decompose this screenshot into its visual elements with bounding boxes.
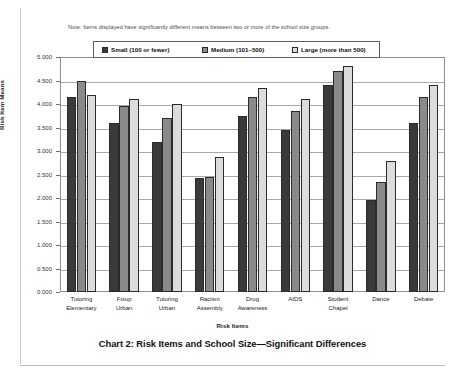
x-label-line: Assembly <box>188 304 231 313</box>
legend-label: Small (100 or fewer) <box>111 46 169 53</box>
chart-caption: Chart 2: Risk Items and School Size—Sign… <box>0 338 465 349</box>
x-label-line: Dance <box>359 295 402 304</box>
legend-swatch-icon <box>292 47 298 53</box>
legend-label: Medium (101–500) <box>211 46 264 53</box>
bar <box>109 123 119 292</box>
legend-entry: Small (100 or fewer) <box>102 46 169 53</box>
y-axis-tick-mark <box>56 292 60 293</box>
x-label-line: AIDS <box>274 295 317 304</box>
x-axis-category-label: RacismAssembly <box>188 295 231 312</box>
legend-swatch-icon <box>102 47 108 53</box>
bar-group <box>359 57 402 292</box>
bar-group <box>146 57 189 292</box>
bar <box>205 177 215 292</box>
bar <box>386 161 396 292</box>
bar <box>376 182 386 292</box>
bar <box>258 88 268 292</box>
x-axis-category-label: AIDS <box>274 295 317 304</box>
bar-group <box>188 57 231 292</box>
bar <box>301 99 311 292</box>
x-axis-category-label: FixupUrban <box>103 295 146 312</box>
x-label-line: Racism <box>188 295 231 304</box>
bar <box>429 85 439 292</box>
x-label-line: Urban <box>103 304 146 313</box>
bar-group <box>60 57 103 292</box>
x-axis-title: Risk Items <box>0 322 465 329</box>
y-axis-tick-label: 2.500 <box>18 171 52 177</box>
x-label-line: Debate <box>402 295 445 304</box>
legend-swatch-icon <box>202 47 208 53</box>
bar <box>333 71 343 292</box>
bar <box>323 85 333 292</box>
chart-note: Note: Items displayed have significantly… <box>68 24 458 30</box>
bar <box>281 130 291 292</box>
bar <box>87 95 97 292</box>
bar <box>419 97 429 292</box>
bar <box>129 99 139 292</box>
bar <box>162 118 172 292</box>
legend-entry: Large (more than 500) <box>292 46 366 53</box>
bar <box>172 104 182 292</box>
bar <box>67 97 77 292</box>
bar <box>248 97 258 292</box>
bar-group <box>274 57 317 292</box>
y-axis-tick-label: 2.000 <box>18 195 52 201</box>
x-axis-category-label: TutoringUrban <box>146 295 189 312</box>
x-label-line: Tutoring <box>146 295 189 304</box>
x-axis-category-label: DrugAwareness <box>231 295 274 312</box>
bar-group <box>317 57 360 292</box>
bar <box>77 81 87 293</box>
x-label-line: Drug <box>231 295 274 304</box>
x-axis-labels: TutoringElementaryFixupUrbanTutoringUrba… <box>60 295 445 321</box>
x-axis-category-label: StudentChapel <box>317 295 360 312</box>
legend-label: Large (more than 500) <box>301 46 366 53</box>
y-axis-tick-label: 4.000 <box>18 101 52 107</box>
bar <box>195 178 205 292</box>
bar-group <box>103 57 146 292</box>
x-label-line: Chapel <box>317 304 360 313</box>
x-label-line: Fixup <box>103 295 146 304</box>
page-left-rule <box>20 8 21 364</box>
x-axis-category-label: Dance <box>359 295 402 304</box>
bar <box>215 157 225 292</box>
y-axis-tick-label: 3.000 <box>18 148 52 154</box>
bar <box>119 106 129 292</box>
bar <box>152 142 162 292</box>
x-label-line: Elementary <box>60 304 103 313</box>
chart-legend: Small (100 or fewer)Medium (101–500)Larg… <box>93 41 380 58</box>
x-axis-category-label: TutoringElementary <box>60 295 103 312</box>
bar-group <box>231 57 274 292</box>
y-axis-title: Risk Item Means <box>0 80 5 130</box>
y-axis-tick-label: 0.500 <box>18 265 52 271</box>
bar <box>409 123 419 292</box>
x-label-line: Tutoring <box>60 295 103 304</box>
bar <box>366 200 376 292</box>
y-axis-tick-label: 4.500 <box>18 77 52 83</box>
y-axis-tick-label: 3.500 <box>18 124 52 130</box>
y-axis-tick-label: 5.000 <box>18 54 52 60</box>
y-axis-tick-label: 1.000 <box>18 242 52 248</box>
x-label-line: Student <box>317 295 360 304</box>
bars-layer <box>60 57 445 292</box>
bar <box>343 66 353 292</box>
x-axis-category-label: Debate <box>402 295 445 304</box>
page-bottom-rule <box>20 365 445 366</box>
y-axis-tick-label: 0.000 <box>18 289 52 295</box>
bar-group <box>402 57 445 292</box>
legend-entry: Medium (101–500) <box>202 46 264 53</box>
y-axis-tick-label: 1.500 <box>18 218 52 224</box>
bar <box>291 111 301 292</box>
x-label-line: Urban <box>146 304 189 313</box>
bar <box>238 116 248 292</box>
x-label-line: Awareness <box>231 304 274 313</box>
